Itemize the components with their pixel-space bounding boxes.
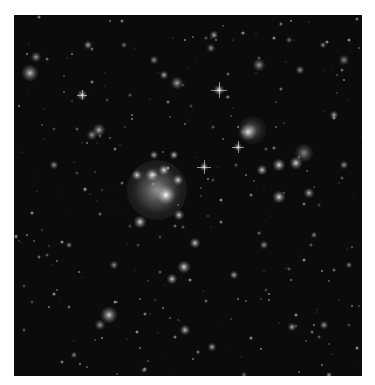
faint-galaxy xyxy=(358,305,360,307)
faint-galaxy xyxy=(112,190,113,191)
faint-galaxy xyxy=(268,293,270,295)
faint-galaxy xyxy=(86,142,88,144)
faint-galaxy xyxy=(165,284,166,285)
faint-galaxy xyxy=(358,47,360,49)
faint-galaxy xyxy=(242,131,245,134)
faint-galaxy xyxy=(248,114,249,115)
faint-galaxy xyxy=(98,135,101,138)
faint-galaxy xyxy=(127,244,128,245)
faint-galaxy xyxy=(174,224,177,227)
faint-galaxy xyxy=(265,288,268,291)
faint-galaxy xyxy=(331,65,332,66)
faint-galaxy xyxy=(233,40,234,41)
faint-galaxy xyxy=(59,298,60,299)
faint-galaxy xyxy=(313,324,315,326)
faint-galaxy xyxy=(212,179,215,182)
galaxy xyxy=(257,165,267,175)
faint-galaxy xyxy=(128,225,131,228)
faint-galaxy xyxy=(174,335,177,338)
galaxy xyxy=(260,241,268,249)
faint-galaxy xyxy=(91,48,94,51)
faint-galaxy xyxy=(219,221,222,224)
faint-galaxy xyxy=(348,323,351,326)
faint-galaxy xyxy=(112,208,113,209)
galaxy xyxy=(22,65,38,81)
faint-galaxy xyxy=(321,270,323,272)
diffraction-spike xyxy=(204,160,205,174)
faint-galaxy xyxy=(104,85,105,86)
faint-galaxy xyxy=(263,185,264,186)
faint-galaxy xyxy=(147,280,149,282)
faint-galaxy xyxy=(136,330,139,333)
faint-galaxy xyxy=(18,105,20,107)
faint-galaxy xyxy=(195,156,196,157)
faint-galaxy xyxy=(26,234,28,236)
galaxy xyxy=(230,271,238,279)
faint-galaxy xyxy=(298,156,300,158)
faint-galaxy xyxy=(280,23,283,26)
faint-galaxy xyxy=(56,289,58,291)
faint-galaxy xyxy=(240,32,241,33)
galaxy xyxy=(66,242,72,248)
faint-galaxy xyxy=(308,22,309,23)
faint-galaxy xyxy=(298,371,300,373)
faint-galaxy xyxy=(151,183,154,186)
faint-galaxy xyxy=(255,33,256,34)
galaxy xyxy=(241,372,247,376)
faint-galaxy xyxy=(260,348,262,350)
faint-galaxy xyxy=(339,182,340,183)
faint-galaxy xyxy=(172,37,173,38)
galaxy xyxy=(87,130,97,140)
faint-galaxy xyxy=(38,15,41,18)
faint-galaxy xyxy=(215,39,217,41)
faint-galaxy xyxy=(144,368,147,371)
faint-galaxy xyxy=(316,308,317,309)
faint-galaxy xyxy=(127,338,128,339)
faint-galaxy xyxy=(222,138,224,140)
faint-galaxy xyxy=(94,339,96,341)
faint-galaxy xyxy=(48,245,50,247)
faint-galaxy xyxy=(287,267,290,270)
galaxy xyxy=(157,186,175,204)
faint-galaxy xyxy=(166,166,169,169)
faint-galaxy xyxy=(242,32,245,35)
faint-galaxy xyxy=(218,167,219,168)
faint-galaxy xyxy=(318,203,321,206)
galaxy xyxy=(286,37,292,43)
faint-galaxy xyxy=(94,171,96,173)
faint-galaxy xyxy=(169,116,171,118)
faint-galaxy xyxy=(181,226,184,229)
faint-galaxy xyxy=(29,90,30,91)
faint-galaxy xyxy=(351,305,353,307)
faint-galaxy xyxy=(354,193,355,194)
faint-galaxy xyxy=(295,324,298,327)
faint-galaxy xyxy=(41,124,43,126)
galaxy xyxy=(207,44,215,52)
faint-galaxy xyxy=(286,62,287,63)
faint-galaxy xyxy=(187,68,188,69)
faint-galaxy xyxy=(275,101,277,103)
faint-galaxy xyxy=(139,298,141,300)
faint-galaxy xyxy=(71,100,73,102)
faint-galaxy xyxy=(361,137,362,138)
faint-galaxy xyxy=(245,300,247,302)
faint-galaxy xyxy=(210,38,211,39)
faint-galaxy xyxy=(328,280,330,282)
faint-galaxy xyxy=(290,279,292,281)
faint-galaxy xyxy=(21,152,22,153)
faint-galaxy xyxy=(272,36,275,39)
galaxy xyxy=(150,151,158,159)
faint-galaxy xyxy=(135,48,136,49)
faint-galaxy xyxy=(184,123,186,125)
faint-galaxy xyxy=(79,363,81,365)
faint-galaxy xyxy=(355,347,358,350)
galaxy xyxy=(190,238,200,248)
faint-galaxy xyxy=(343,79,345,81)
faint-galaxy xyxy=(15,235,18,238)
faint-galaxy xyxy=(195,60,196,61)
faint-galaxy xyxy=(210,226,211,227)
faint-galaxy xyxy=(336,74,338,76)
faint-galaxy xyxy=(48,306,50,308)
galaxy xyxy=(253,59,265,71)
faint-galaxy xyxy=(53,128,56,131)
